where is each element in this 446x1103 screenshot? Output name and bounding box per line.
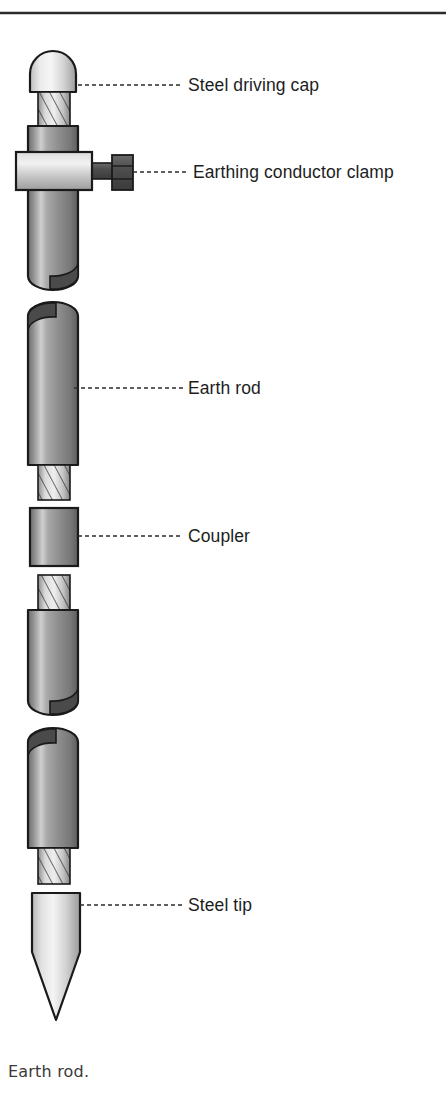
callout-earthing-conductor-clamp: Earthing conductor clamp (133, 162, 394, 182)
label-steel-tip: Steel tip (188, 895, 252, 915)
earth-rod-segment-2 (28, 302, 78, 465)
coupler (30, 508, 78, 566)
threaded-stud-upper (38, 92, 70, 126)
earthing-conductor-bolt[interactable] (92, 155, 133, 190)
earth-rod-segment-3 (28, 610, 78, 715)
callout-coupler: Coupler (78, 526, 250, 546)
threaded-stud-2 (38, 465, 70, 500)
label-earthing-conductor-clamp: Earthing conductor clamp (193, 162, 394, 182)
figure-page: Steel driving cap Earthing conductor cla… (0, 0, 446, 1103)
steel-tip (32, 893, 80, 1020)
threaded-stud-lower (38, 848, 70, 884)
earth-rod-diagram: Steel driving cap Earthing conductor cla… (0, 0, 446, 1103)
earthing-conductor-collar[interactable] (16, 152, 92, 190)
steel-driving-cap (30, 51, 76, 92)
label-earth-rod: Earth rod (188, 378, 261, 398)
label-coupler: Coupler (188, 526, 250, 546)
threaded-stud-3 (38, 575, 70, 610)
figure-caption: Earth rod. (8, 1062, 89, 1081)
callout-steel-tip: Steel tip (80, 895, 252, 915)
callout-steel-driving-cap: Steel driving cap (78, 75, 319, 95)
label-steel-driving-cap: Steel driving cap (188, 75, 319, 95)
earth-rod-segment-1 (28, 126, 78, 290)
earth-rod-segment-4 (28, 728, 78, 848)
callout-earth-rod: Earth rod (74, 378, 261, 398)
